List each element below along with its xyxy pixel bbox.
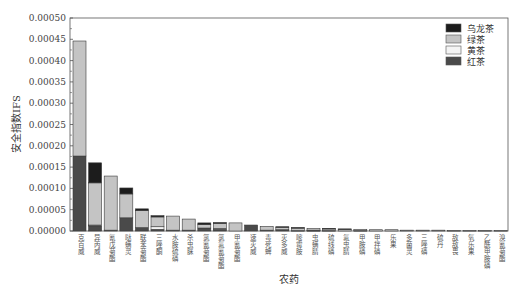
legend-swatch: [446, 46, 461, 54]
bar-segment: [151, 216, 164, 217]
bar-segment: [135, 209, 148, 211]
bar-segment: [73, 156, 86, 231]
bar-segment: [307, 228, 320, 230]
bar-segment: [89, 226, 102, 231]
x-tick-label: 蜱: [265, 247, 272, 256]
x-tick-label: 丹: [437, 241, 444, 249]
bar-segment: [494, 231, 507, 232]
y-tick-label: 0.00045: [29, 34, 66, 44]
x-tick-label: 磷: [484, 261, 491, 270]
legend-label: 黄茶: [467, 45, 485, 56]
y-tick-label: 0.00035: [29, 77, 66, 87]
bar-stack: [135, 209, 148, 231]
bar-segment: [463, 231, 476, 232]
bar-segment: [135, 211, 148, 228]
legend-swatch: [446, 24, 461, 32]
bar-segment: [120, 188, 133, 194]
bar-segment: [276, 227, 289, 228]
bar-segment: [89, 163, 102, 183]
bar-segment: [213, 223, 226, 228]
bar-segment: [479, 231, 492, 232]
bar-stack: [73, 41, 86, 231]
y-tick-label: 0.00020: [29, 141, 66, 151]
plot-border: [70, 18, 508, 231]
bar-segment: [104, 176, 117, 230]
legend: 乌龙茶绿茶黄茶红茶: [446, 23, 494, 67]
bar-segment: [338, 229, 351, 230]
y-tick-label: 0.00025: [29, 120, 66, 130]
x-tick-label: 腈: [343, 247, 350, 256]
y-tick-label: 0.00040: [29, 56, 66, 66]
bar-stack: [276, 227, 289, 231]
bars: [73, 41, 507, 231]
bar-segment: [89, 183, 102, 225]
x-tick-label: 磷: [421, 247, 428, 256]
bar-segment: [120, 218, 133, 231]
y-tick-label: 0.00015: [29, 162, 66, 172]
bar-stack: [260, 226, 273, 231]
x-tick-label: 磷: [374, 247, 381, 256]
x-tick-label: 酯: [140, 255, 147, 263]
bar-segment: [73, 41, 86, 156]
x-tick-label: 胺: [296, 247, 303, 256]
bar-segment: [260, 226, 273, 230]
x-axis: 克百威异丙威氰戊菊酯哒螨灵联苯菊酯三唑酮水胺硫磷杀虫脒氯氰菊酯氯氟氰菊酯甲氰菊酯…: [78, 233, 506, 270]
bar-stack: [182, 219, 195, 231]
x-tick-label: 酯: [109, 255, 116, 263]
plot-frame: [70, 18, 508, 231]
legend-label: 绿茶: [467, 34, 485, 45]
x-tick-label: 脒: [187, 247, 194, 256]
bar-stack: [213, 222, 226, 231]
bar-segment: [182, 219, 195, 230]
bar-segment: [198, 223, 211, 225]
bar-stack: [89, 163, 102, 231]
bar-stack: [463, 231, 476, 232]
bar-segment: [447, 231, 460, 232]
y-tick-label: 0.00050: [29, 13, 66, 23]
bar-segment: [120, 194, 133, 218]
x-tick-label: 酯: [234, 255, 241, 263]
bar-stack: [229, 223, 242, 231]
bar-segment: [323, 228, 336, 229]
x-tick-label: 威: [94, 247, 101, 256]
bar-segment: [167, 216, 180, 230]
bar-segment: [354, 229, 367, 230]
legend-label: 乌龙茶: [467, 23, 494, 34]
bar-segment: [135, 228, 148, 231]
x-tick-label: 畏: [452, 248, 459, 256]
x-tick-label: 威: [78, 247, 85, 256]
bar-stack: [151, 216, 164, 231]
bar-stack: [447, 231, 460, 232]
bar-stack: [354, 229, 367, 231]
bar-stack: [479, 231, 492, 232]
bar-stack: [167, 216, 180, 231]
bar-segment: [213, 222, 226, 223]
bar-stack: [385, 230, 398, 231]
x-tick-label: 酮: [156, 248, 163, 256]
legend-swatch: [446, 57, 461, 65]
bar-segment: [369, 230, 382, 231]
bar-stack: [432, 230, 445, 231]
bar-segment: [198, 228, 211, 231]
bar-segment: [151, 217, 164, 227]
legend-swatch: [446, 35, 461, 43]
bar-segment: [401, 230, 414, 231]
x-tick-label: 磷: [172, 254, 179, 263]
bar-stack: [416, 230, 429, 231]
y-tick-label: 0.00000: [29, 226, 66, 236]
y-axis-title: 安全指数IFS: [10, 95, 22, 153]
bar-segment: [151, 227, 164, 230]
x-tick-label: 酯: [499, 255, 506, 263]
x-tick-label: 腈: [312, 247, 319, 256]
x-tick-label: 酯: [203, 255, 210, 263]
bar-stack: [198, 223, 211, 231]
bar-segment: [198, 225, 211, 228]
x-tick-label: 磷: [328, 247, 335, 256]
stacked-bar-chart: 0.000000.000050.000100.000150.000200.000…: [0, 0, 526, 297]
y-tick-label: 0.00005: [29, 205, 66, 215]
bar-stack: [369, 230, 382, 231]
y-tick-label: 0.00010: [29, 183, 66, 193]
bar-stack: [323, 228, 336, 231]
x-tick-label: 磷: [359, 247, 366, 256]
bar-stack: [401, 230, 414, 231]
